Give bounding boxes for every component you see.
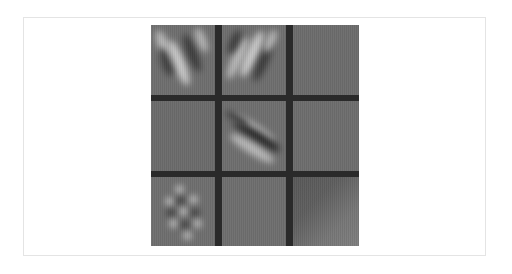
- filter-tile-r2-c2: [293, 177, 359, 246]
- filter-tile-r2-c1: [222, 177, 286, 246]
- filter-tile-r0-c2: [293, 25, 359, 95]
- spot-light: [175, 185, 184, 194]
- filter-tile-r1-c0: [151, 101, 215, 171]
- spot-light: [179, 207, 188, 216]
- spot-light: [193, 219, 202, 228]
- filter-tile-r1-c2: [293, 101, 359, 171]
- filter-grid: [151, 25, 359, 246]
- spot-light: [169, 219, 178, 228]
- spot-dark: [177, 197, 185, 205]
- spot-light: [165, 197, 174, 206]
- spot-light: [183, 231, 192, 240]
- figure-canvas: [0, 0, 512, 274]
- spot-dark: [191, 209, 199, 217]
- filter-tile-r0-c1: [222, 25, 286, 95]
- spot-light: [189, 195, 198, 204]
- filter-tile-r0-c0: [151, 25, 215, 95]
- filter-tile-r1-c1: [222, 101, 286, 171]
- spot-dark: [167, 209, 175, 217]
- filter-tile-r2-c0: [151, 177, 215, 246]
- spot-dark: [181, 221, 189, 229]
